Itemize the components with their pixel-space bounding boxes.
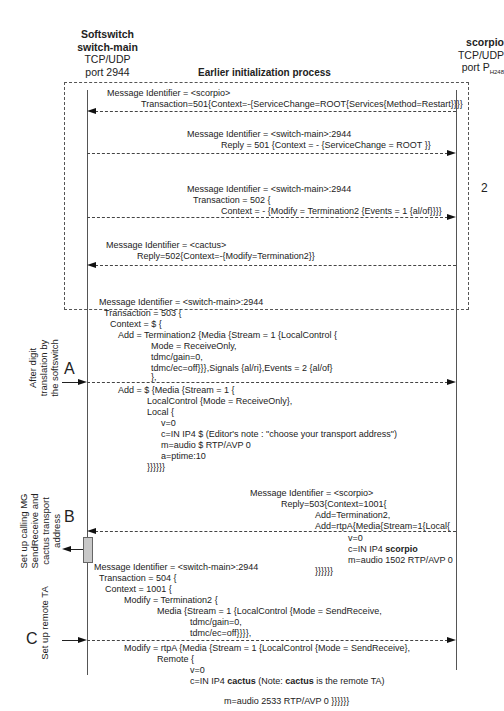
arrow-left-icon [87,108,96,114]
msg-503-l14: m=audio $ RTP/AVP 0 [161,440,251,451]
arrow-right-icon [447,637,456,643]
msg-501-body: Transaction=501{Context=-{ServiceChange=… [141,99,463,110]
reply-501-body: Reply = 501 {Context = - {ServiceChange … [221,140,431,151]
step-b-letter: B [64,508,75,526]
arrow-right-icon [78,379,87,385]
arrow-right-icon [447,150,456,156]
step-c-label: Set up remote TA [39,573,53,673]
msg-503-l13: c=IN IP4 $ (Editor's note : "choose your… [161,429,397,440]
msg-504-l8: Modify = rtpA {Media {Stream = 1 {LocalC… [124,643,410,654]
msg-503-l6: tdmc/gain=0, [151,352,203,363]
reply-503-l3: Add=Termination2, [315,510,390,521]
msg-504-l4: Modify = Termination2 { [124,595,218,606]
msg-501-id: Message Identifier = <scorpio> [107,88,230,99]
reply-503-l2: Reply=503{Context=1001{ [281,499,387,510]
reply-503-l8: }}}}}} [315,566,333,577]
msg-504-l7: tdmc/ec=off}}}}, [190,628,251,639]
reply-503-l6: c=IN IP4 scorpio [348,544,418,555]
right-entity-header: scorpio TCP/UDP port PH248 [428,36,504,79]
msg-503-l2: Transaction = 503 { [104,308,181,319]
reply-503-arrow-line [95,531,456,532]
left-entity-header: Softswitch switch-main TCP/UDP port 2944 [60,28,155,78]
left-entity-protocol: TCP/UDP [60,53,155,66]
msg-504-l5: Media {Stream = 1 {LocalControl {Mode = … [157,606,382,617]
msg-503-l12: v=0 [161,418,176,429]
msg-504-l3: Context = 1001 { [105,584,172,595]
reply-501-id: Message Identifier = <switch-main>:2944 [187,129,351,140]
right-entity-protocol: TCP/UDP [428,49,504,62]
step-a-letter: A [64,360,75,378]
msg-503-l7: tdmc/ec=off}}},Signals {al/ri},Events = … [151,363,332,374]
left-entity-port: port 2944 [60,66,155,79]
step-a-label: After digit translation by the softswitc… [27,328,63,408]
step-b-pointer-line [70,549,83,550]
arrow-right-icon [447,379,456,385]
msg-503-l15: a=ptime:10 [161,451,206,462]
msg-504-l9: Remote { [157,654,194,665]
msg-502-id: Message Identifier = <switch-main>:2944 [187,184,351,195]
msg-502-arrow-line [87,217,448,218]
reply-503-l4: Add=rtpA{Media{Stream=1{Local{ [315,521,450,532]
msg-501-arrow-line [95,111,456,112]
arrow-left-icon [87,528,96,534]
arrow-right-icon [78,637,87,643]
msg-503-l11: Local { [147,407,174,418]
msg-504-l11: c=IN IP4 cactus (Note: cactus is the rem… [190,676,385,687]
msg-503-l8: }, [151,372,157,383]
msg-503-l16: }}}}}} [147,462,165,473]
arrow-right-icon [447,214,456,220]
left-entity-host: switch-main [60,41,155,54]
reply-501-arrow-line [87,153,448,154]
msg-503-l3: Context = $ { [110,319,162,330]
msg-504-l10: v=0 [190,665,205,676]
msg-504-arrow-line [87,640,448,641]
msg-503-l9: Add = $ {Media {Stream = 1 { [118,385,235,396]
reply-503-l7: m=audio 1502 RTP/AVP 0 [348,555,453,566]
reply-502-body: Reply=502{Context=-{Modify=Termination2}… [137,251,315,262]
msg-504-l1: Message Identifier = <switch-main>:2944 [94,562,258,573]
left-entity-name: Softswitch [60,28,155,41]
reply-502-arrow-line [95,265,456,266]
msg-504-l6: tdmc/gain=0, [190,617,242,628]
reply-503-l1: Message Identifier = <scorpio> [250,488,373,499]
msg-503-l4: Add = Termination2 {Media {Stream = 1 {L… [118,330,337,341]
init-box-number: 2 [481,183,488,194]
init-box-title: Earlier initialization process [198,68,331,79]
msg-503-arrow-line [87,382,448,383]
msg-503-l10: LocalControl {Mode = ReceiveOnly}, [147,396,292,407]
msg-502-context: Context = - {Modify = Termination2 {Even… [221,206,442,217]
arrow-left-icon [87,262,96,268]
right-entity-port: port PH248 [428,61,504,79]
reply-502-id: Message Identifier = <cactus> [106,240,226,251]
msg-504-l12: m=audio 2533 RTP/AVP 0 }}}}}} [224,696,349,707]
right-lifeline [456,90,457,670]
msg-504-l2: Transaction = 504 { [99,573,176,584]
msg-503-l5: Mode = ReceiveOnly, [151,341,237,352]
right-entity-name: scorpio [428,36,504,49]
activation-bar [83,537,93,563]
msg-502-transaction: Transaction = 502 { [193,195,270,206]
reply-503-l5: v=0 [348,533,363,544]
step-c-letter: C [26,630,38,648]
step-b-label: Set up calling MG SendReceive and cactus… [18,483,64,579]
msg-503-l1: Message Identifier = <switch-main>:2944 [99,297,263,308]
